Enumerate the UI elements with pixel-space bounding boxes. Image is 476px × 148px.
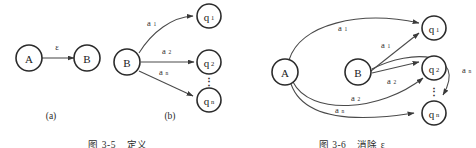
node-label-b-qn: q: [204, 95, 210, 107]
panel-label-a: (a): [46, 111, 57, 122]
edge-label-c-A-q1: a: [338, 23, 342, 33]
node-label-b-q2-sub: 2: [211, 60, 214, 67]
edge-label-c-A-q1-sub: 1: [345, 26, 348, 32]
edge-label-b-an: a: [159, 67, 163, 77]
edge-label-c-B-qn-sub: n: [469, 68, 472, 74]
panel-c: a 1 a 2 a n a 1 a 2 a n A: [272, 16, 472, 125]
edge-label-c-B-qn: a: [462, 65, 466, 75]
edge-c-A-q1: [289, 18, 419, 60]
node-label-a-B: B: [83, 53, 90, 65]
node-label-c-q2-sub: 2: [436, 66, 439, 73]
panel-a: ε A B (a): [16, 42, 100, 122]
ellipsis-b: ⋮: [204, 76, 214, 87]
edge-label-b-a2-sub: 2: [169, 49, 172, 55]
node-label-c-q2: q: [429, 63, 435, 75]
node-label-b-B: B: [123, 57, 130, 69]
automata-figure: ε A B (a) a 1 a 2 a n B: [0, 0, 476, 148]
panel-b: a 1 a 2 a n B q 1 q 2 ⋮ q: [114, 4, 221, 122]
edge-label-c-B-q1-sub: 1: [388, 43, 391, 49]
edge-c-B-q2: [372, 62, 419, 73]
edge-label-b-a2: a: [162, 46, 166, 56]
caption-left: 图 3-5 定义: [88, 139, 147, 148]
edge-label-c-B-q2-sub: 2: [394, 79, 397, 85]
caption-right: 图 3-6 消除 ε: [319, 139, 385, 148]
node-label-c-q1: q: [429, 23, 435, 35]
edge-label-b-an-sub: n: [166, 70, 169, 76]
edge-c-B-q1: [371, 33, 419, 71]
panel-label-b: (b): [164, 111, 175, 122]
edge-label-c-B-q1: a: [381, 40, 385, 50]
edge-label-b-a1: a: [147, 18, 151, 28]
edge-label-c-A-q2: a: [351, 93, 355, 103]
node-label-b-q1-sub: 1: [211, 14, 214, 21]
node-label-b-q1: q: [204, 11, 210, 23]
edge-label-b-a1-sub: 1: [154, 21, 157, 27]
figure-container: ε A B (a) a 1 a 2 a n B: [0, 0, 476, 148]
node-label-c-qn: q: [429, 108, 435, 120]
node-label-a-A: A: [25, 53, 33, 65]
node-label-c-B: B: [354, 67, 361, 79]
edge-label-c-A-qn: a: [335, 105, 339, 115]
ellipsis-c: ⋮: [429, 86, 439, 97]
edge-label-epsilon: ε: [55, 42, 59, 52]
edge-label-c-A-qn-sub: n: [342, 108, 345, 114]
node-label-b-q2: q: [204, 57, 210, 69]
edge-label-c-B-q2: a: [387, 76, 391, 86]
edge-label-c-A-q2-sub: 2: [358, 96, 361, 102]
node-label-c-q1-sub: 1: [436, 26, 439, 33]
node-label-c-A: A: [281, 67, 289, 79]
